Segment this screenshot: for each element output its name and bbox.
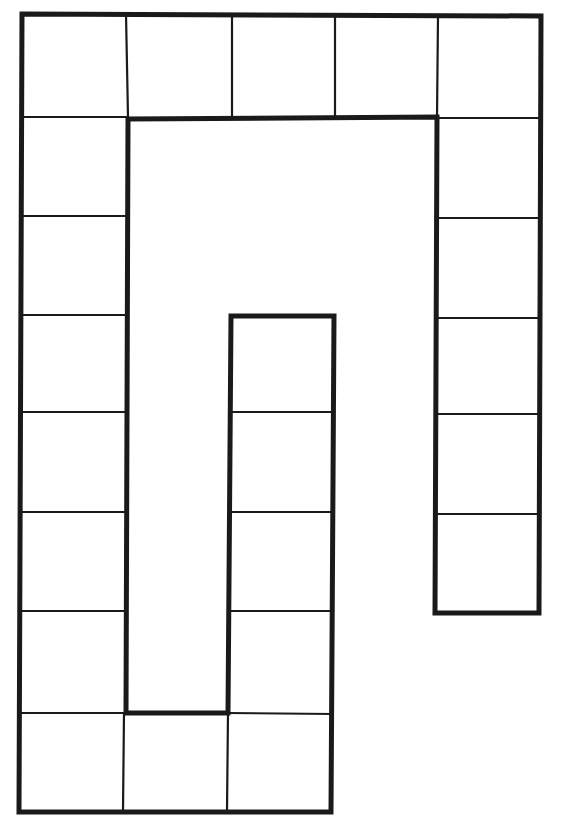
cell-divider (437, 16, 438, 118)
board-cell-4 (21, 611, 125, 713)
board-cell-8 (22, 216, 126, 315)
board-cell-1 (230, 713, 332, 812)
board-cell-5 (21, 512, 125, 611)
cell-divider (123, 713, 124, 812)
cell-divider (228, 713, 332, 714)
game-board (0, 0, 565, 829)
board-cell-12 (232, 15, 335, 118)
board-cell-11 (126, 14, 232, 118)
board-cell-15 (438, 118, 540, 218)
board-cell-14 (438, 16, 541, 118)
board-cell-23 (230, 611, 332, 713)
board-cell-2 (124, 713, 230, 812)
board-cell-21 (231, 412, 334, 512)
board-cell-18 (437, 414, 539, 514)
board-cell-19 (437, 514, 539, 613)
board-cell-7 (22, 315, 126, 412)
board-cell-10 (22, 14, 126, 117)
board-cell-20 (231, 316, 334, 412)
cell-divider (227, 713, 228, 812)
board-cell-9 (22, 117, 126, 216)
board-cell-16 (438, 218, 540, 318)
board-cell-13 (335, 15, 438, 118)
board-cell-6 (22, 412, 126, 512)
board-cell-22 (230, 512, 333, 611)
board-cell-3 (19, 713, 124, 812)
board-cell-17 (437, 318, 539, 414)
